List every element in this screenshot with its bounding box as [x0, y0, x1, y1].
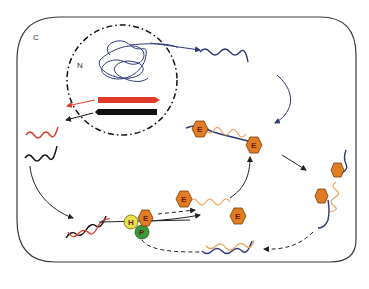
hexagon-E-bound-1: E [192, 121, 208, 137]
right-blue-bottom [318, 200, 329, 228]
svg-text:H: H [128, 218, 134, 227]
arrow-up-to-bound [230, 157, 250, 198]
hexagon-E-free-1: E [176, 191, 192, 207]
diagram-canvas: C N H P E E E [0, 0, 369, 289]
blue-mrna [200, 49, 248, 62]
dashed-return-bottom [142, 240, 200, 252]
bound-orange-strand [206, 127, 246, 137]
orange-strand-free [190, 199, 230, 205]
svg-text:E: E [235, 212, 241, 221]
svg-text:E: E [143, 214, 149, 223]
black-rna-strand [25, 146, 57, 161]
helper-E-hexagon: E [138, 210, 153, 226]
bottom-duplex-blue [202, 241, 252, 254]
cell-frame [17, 17, 356, 262]
dashed-arrow-return [264, 232, 313, 249]
annealing-arrow [30, 166, 73, 218]
svg-text:P: P [139, 228, 145, 237]
dashed-arrow-top [158, 210, 195, 214]
helper-H-node: H [124, 215, 138, 229]
export-arrow [150, 43, 200, 50]
mrna-to-binding-arrow [275, 75, 291, 123]
hexagon-E-free-2: E [230, 208, 246, 224]
hexagon-right-2 [315, 189, 328, 203]
right-orange [330, 182, 339, 212]
hexagon-E-bound-2: E [246, 137, 262, 153]
svg-text:E: E [197, 125, 203, 134]
helper-P-node: P [135, 225, 149, 239]
arrow-to-cleavage [282, 155, 306, 170]
bottom-duplex-orange [206, 240, 254, 250]
svg-text:E: E [181, 195, 187, 204]
black-gene-bar [95, 109, 157, 115]
svg-text:E: E [251, 141, 257, 150]
hexagon-right-1 [331, 163, 344, 177]
red-gene-bar [98, 97, 160, 103]
chromatin-tangle [99, 41, 178, 82]
red-rna-strand [26, 127, 58, 138]
duplex-black [66, 216, 106, 238]
panel-label: C [33, 33, 39, 42]
nucleus-label: N [77, 61, 83, 70]
